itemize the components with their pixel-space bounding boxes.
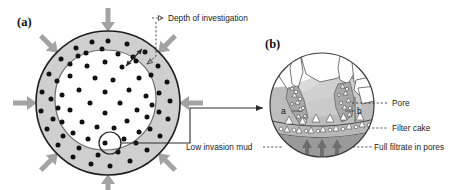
panel-b-label: (b) [265,37,280,51]
panel-a-label: (a) [17,15,32,29]
full-filtrate-label: Full filtrate in pores [374,142,444,152]
filter-cake-callout: Filter cake [368,123,431,133]
invasion-arrow-s [101,174,115,190]
depth-of-investigation-label: Depth of investigation [168,13,248,23]
low-invasion-mud-callout: Low invasion mud [186,142,283,152]
invasion-arrow-n [101,8,115,32]
mud-invasion-figure: Depth of investigation (a) [0,0,462,190]
full-filtrate-callout: Full filtrate in pores [353,142,444,152]
point-a-label: a [281,106,286,116]
filter-cake-label: Filter cake [392,123,431,133]
pore-label: Pore [392,98,410,108]
panel-b: a b Pore Filter cake Full filtrate in po… [186,37,444,162]
point-b-label: b [357,106,362,116]
panel-a: Depth of investigation (a) [13,8,248,190]
depth-label-arrow-stub [152,16,163,21]
invasion-arrow-w [13,96,37,110]
low-invasion-mud-label: Low invasion mud [186,142,253,152]
